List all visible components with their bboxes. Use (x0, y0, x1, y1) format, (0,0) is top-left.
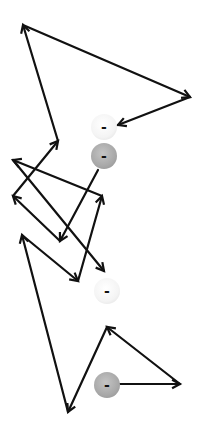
minus-sign-icon: - (101, 120, 107, 134)
arrow-line (23, 25, 190, 97)
arrow-line (23, 25, 58, 141)
negative-charge-circle: - (94, 372, 120, 398)
arrow-line (22, 235, 68, 412)
arrow-line (13, 196, 60, 241)
arrow-line (118, 97, 190, 125)
minus-sign-icon: - (101, 149, 107, 163)
negative-charge-circle: - (91, 143, 117, 169)
arrow-line (22, 235, 78, 281)
negative-charge-circle: - (94, 278, 120, 304)
arrow-line (68, 327, 107, 412)
minus-sign-icon: - (104, 284, 110, 298)
arrow-paths (13, 25, 190, 412)
arrow-line (107, 327, 180, 384)
minus-sign-icon: - (104, 378, 110, 392)
negative-charge-circle: - (91, 114, 117, 140)
arrow-diagram (0, 0, 201, 432)
